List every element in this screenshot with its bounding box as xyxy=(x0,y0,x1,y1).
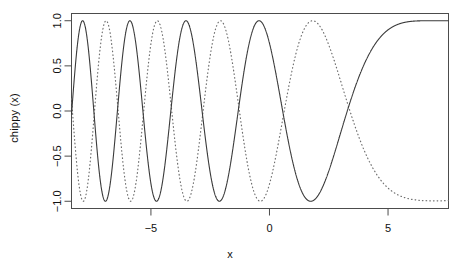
y-tick-label: −0.5 xyxy=(51,145,63,167)
x-tick-label: 0 xyxy=(266,222,272,234)
series-dotted-chirp xyxy=(72,21,449,202)
y-tick-label: 0.5 xyxy=(51,58,63,73)
y-tick-label: −1.0 xyxy=(51,190,63,212)
plot-frame xyxy=(72,14,449,209)
y-tick-label: 0.0 xyxy=(51,103,63,118)
chart-panel: −505−1.0−0.50.00.51.0 x chippy (x) xyxy=(0,0,460,275)
chart-svg: −505−1.0−0.50.00.51.0 xyxy=(0,0,460,275)
series-solid-chirp xyxy=(72,21,449,202)
x-tick-label: −5 xyxy=(145,222,158,234)
x-axis-label: x xyxy=(0,248,460,260)
x-tick-label: 5 xyxy=(385,222,391,234)
y-axis-label: chippy (x) xyxy=(8,58,20,178)
y-tick-label: 1.0 xyxy=(51,13,63,28)
